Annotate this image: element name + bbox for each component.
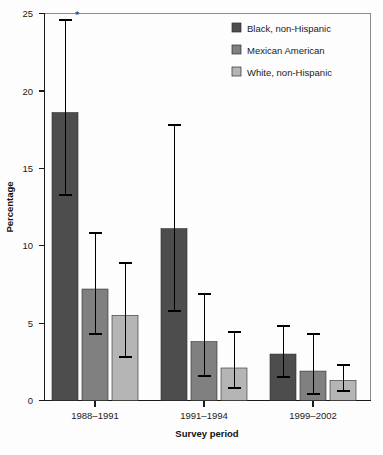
y-tick-label-10: 10	[22, 240, 33, 251]
x-axis-ticks	[95, 401, 313, 407]
chart-legend: Black, non-Hispanic Mexican American Whi…	[232, 23, 332, 78]
bar-chart-canvas: 25 20 15 10 5 0 Percentage * 1988–1991 1…	[0, 0, 383, 455]
legend-swatch-mexican-american	[232, 45, 241, 54]
y-axis-ticks	[39, 14, 45, 401]
x-tick-label-1999-2002: 1999–2002	[289, 410, 337, 421]
legend-label-black-non-hispanic: Black, non-Hispanic	[247, 23, 331, 34]
y-axis-title: Percentage	[4, 181, 15, 232]
x-tick-label-1991-1994: 1991–1994	[180, 410, 228, 421]
y-tick-label-25: 25	[22, 8, 33, 19]
x-axis-title: Survey period	[175, 428, 239, 439]
significance-asterisk: *	[75, 9, 80, 21]
legend-label-mexican-american: Mexican American	[247, 45, 325, 56]
legend-label-white-non-hispanic: White, non-Hispanic	[247, 67, 332, 78]
chart-figure: 25 20 15 10 5 0 Percentage * 1988–1991 1…	[0, 0, 383, 455]
y-tick-label-0: 0	[28, 395, 33, 406]
x-tick-label-1988-1991: 1988–1991	[71, 410, 119, 421]
y-tick-label-5: 5	[28, 318, 33, 329]
legend-swatch-white-non-hispanic	[232, 67, 241, 76]
legend-swatch-black-non-hispanic	[232, 23, 241, 32]
y-tick-label-20: 20	[22, 86, 33, 97]
y-tick-label-15: 15	[22, 163, 33, 174]
